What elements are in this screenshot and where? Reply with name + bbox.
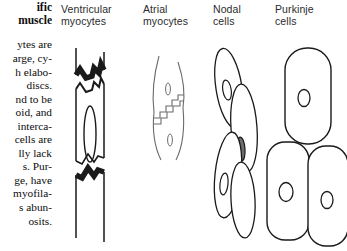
purkinje-cells-diagram [267, 48, 347, 246]
atrial-intercalated-disc-edge [154, 101, 184, 124]
atrial-cell-lower-left-edge [153, 112, 161, 160]
ventricular-myocyte-diagram [76, 48, 104, 242]
ventricular-intercalated-disc-top [76, 64, 104, 78]
cell-diagrams [0, 0, 347, 251]
figure-page: ific muscle ytes are arge, cy- h elabo- … [0, 0, 347, 251]
nodal-cell-4 [229, 161, 257, 238]
ventricular-intercalated-disc-bottom [76, 168, 104, 178]
purkinje-cell-top-nucleus [298, 90, 310, 107]
purkinje-cell-bottom-right-nucleus [321, 192, 333, 209]
atrial-myocyte-diagram [153, 56, 184, 160]
atrial-cell-upper-left-edge [153, 56, 159, 112]
purkinje-cell-bottom-left-nucleus [279, 183, 293, 202]
atrial-nucleus-upper [166, 83, 171, 95]
atrial-cell-lower-right-edge [176, 108, 184, 160]
ventricular-intercalated-disc-top-edge [76, 78, 104, 92]
atrial-nucleus-lower [168, 134, 173, 146]
nodal-cells-diagram [210, 46, 260, 238]
ventricular-nucleus [84, 106, 96, 162]
